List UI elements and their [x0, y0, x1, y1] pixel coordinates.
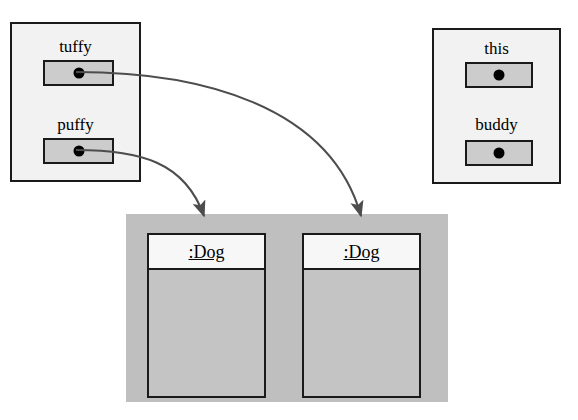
tuffy-reference-slot [43, 60, 114, 86]
object-title: :Dog [344, 243, 380, 261]
heap-region: :Dog :Dog [126, 214, 448, 402]
reference-dot-icon [494, 148, 505, 159]
object-body [304, 270, 419, 396]
reference-dot-icon [73, 146, 84, 157]
puffy-reference-slot [43, 138, 114, 164]
object-reference-diagram: tuffy puffy this buddy :Dog :Dog [0, 0, 578, 420]
left-stack-frame: tuffy puffy [10, 22, 141, 182]
variable-label-this: this [434, 40, 559, 57]
variable-label-puffy: puffy [12, 116, 139, 133]
reference-dot-icon [494, 70, 505, 81]
this-reference-slot [465, 62, 533, 88]
variable-label-buddy: buddy [434, 116, 559, 133]
object-body [149, 270, 264, 396]
object-header: :Dog [149, 235, 264, 270]
buddy-reference-slot [465, 140, 533, 166]
right-stack-frame: this buddy [432, 28, 561, 184]
object-box-dog-2: :Dog [302, 233, 421, 398]
object-box-dog-1: :Dog [147, 233, 266, 398]
object-header: :Dog [304, 235, 419, 270]
reference-dot-icon [73, 68, 84, 79]
object-title: :Dog [189, 243, 225, 261]
variable-label-tuffy: tuffy [12, 38, 139, 55]
